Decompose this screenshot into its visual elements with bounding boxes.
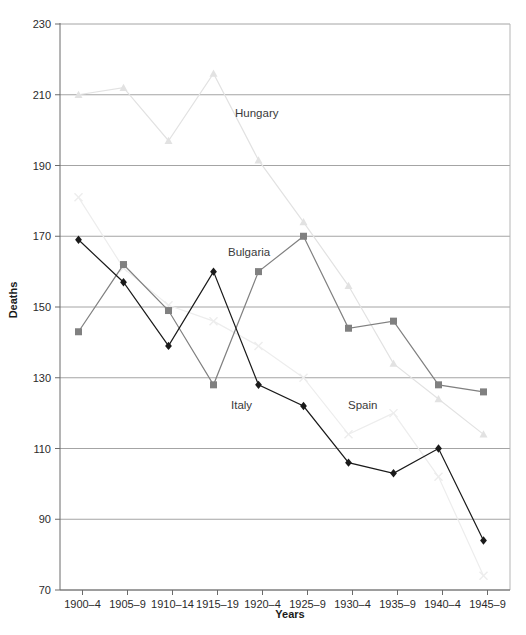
x-tick-label-9: 1945–9 <box>469 598 506 610</box>
marker-hungary-1 <box>120 84 128 91</box>
series-label-spain: Spain <box>348 399 377 411</box>
marker-spain-3 <box>210 317 218 325</box>
x-tick-label-7: 1935–9 <box>379 598 416 610</box>
marker-bulgaria-5 <box>300 233 307 240</box>
y-tick-label-210: 210 <box>33 89 51 101</box>
marker-bulgaria-1 <box>120 261 127 268</box>
y-axis-ticks: 7090110130150170190210230 <box>33 18 60 596</box>
marker-hungary-3 <box>210 70 218 77</box>
plot-frame <box>60 23 510 590</box>
marker-italy-9 <box>480 536 487 544</box>
marker-italy-8 <box>435 444 442 452</box>
x-axis-ticks: 1900–41905–91910–141915–191920–41925–919… <box>64 590 506 610</box>
x-tick-label-2: 1910–14 <box>151 598 194 610</box>
series-italy <box>75 236 487 545</box>
marker-bulgaria-9 <box>480 388 487 395</box>
series-label-hungary: Hungary <box>235 107 279 119</box>
y-tick-label-190: 190 <box>33 160 51 172</box>
series-line-italy <box>79 240 484 541</box>
marker-spain-0 <box>75 193 83 201</box>
marker-spain-8 <box>435 473 443 481</box>
y-tick-label-90: 90 <box>39 513 51 525</box>
x-tick-label-8: 1940–4 <box>424 598 461 610</box>
x-axis-title: Years <box>275 608 304 620</box>
marker-spain-9 <box>480 572 488 580</box>
y-tick-label-130: 130 <box>33 372 51 384</box>
x-tick-label-6: 1930–4 <box>334 598 371 610</box>
marker-italy-7 <box>390 469 397 477</box>
marker-bulgaria-6 <box>345 325 352 332</box>
x-tick-label-3: 1915–19 <box>196 598 239 610</box>
chart-canvas: 7090110130150170190210230 1900–41905–919… <box>0 0 526 635</box>
series-line-bulgaria <box>79 236 484 392</box>
line-chart: 7090110130150170190210230 1900–41905–919… <box>0 0 526 635</box>
x-tick-label-1: 1905–9 <box>109 598 146 610</box>
y-axis-title: Deaths <box>7 282 19 319</box>
data-series-group <box>75 70 488 580</box>
series-bulgaria <box>75 233 487 396</box>
gridlines <box>60 24 510 590</box>
marker-hungary-7 <box>390 360 398 367</box>
marker-bulgaria-3 <box>210 381 217 388</box>
y-tick-label-70: 70 <box>39 584 51 596</box>
marker-bulgaria-0 <box>75 328 82 335</box>
marker-bulgaria-8 <box>435 381 442 388</box>
y-tick-label-150: 150 <box>33 301 51 313</box>
marker-spain-4 <box>255 342 263 350</box>
marker-bulgaria-4 <box>255 268 262 275</box>
y-tick-label-230: 230 <box>33 18 51 30</box>
marker-spain-6 <box>345 430 353 438</box>
y-tick-label-170: 170 <box>33 230 51 242</box>
x-tick-label-0: 1900–4 <box>64 598 101 610</box>
marker-hungary-4 <box>255 156 263 163</box>
marker-bulgaria-2 <box>165 307 172 314</box>
series-label-italy: Italy <box>231 399 252 411</box>
marker-italy-4 <box>255 381 262 389</box>
marker-bulgaria-7 <box>390 318 397 325</box>
marker-spain-7 <box>390 409 398 417</box>
series-spain <box>75 193 488 580</box>
y-tick-label-110: 110 <box>33 443 51 455</box>
series-label-bulgaria: Bulgaria <box>228 246 271 258</box>
